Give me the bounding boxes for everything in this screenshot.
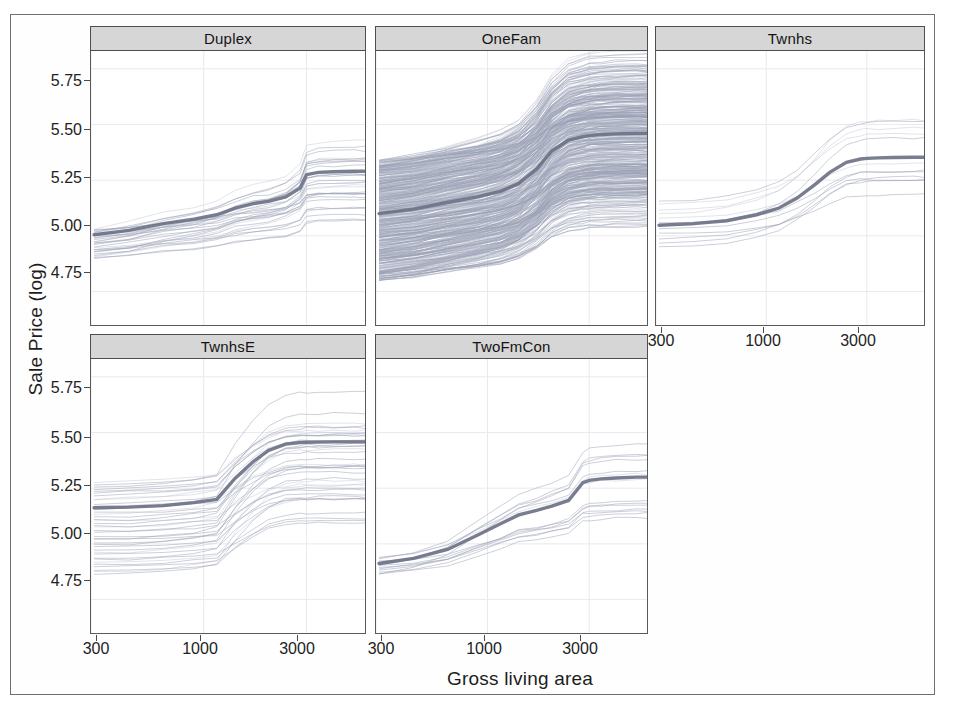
ice-curve — [379, 454, 647, 565]
facet-twofmcon: TwoFmCon — [375, 334, 648, 634]
x-tick-label-twofmcon-1000: 1000 — [454, 640, 514, 658]
x-tick-label-twofmcon-3000: 3000 — [550, 640, 610, 658]
y-axis-title: Sale Price (log) — [25, 229, 47, 429]
facet-strip-twnhse: TwnhsE — [90, 334, 366, 359]
y-tick-label-row0-550: 5.50 — [26, 121, 82, 139]
x-tick-label-twnhse-300: 300 — [66, 640, 126, 658]
facet-label-onefam: OneFam — [482, 30, 542, 47]
facet-svg-twnhs — [656, 51, 924, 325]
pdp-mean-curve — [659, 157, 924, 225]
y-tick-label-row1-575: 5.75 — [26, 379, 82, 397]
facet-panel-twnhse — [90, 359, 366, 634]
x-tick-label-twofmcon-300: 300 — [351, 640, 411, 658]
ice-curve — [379, 513, 647, 568]
facet-twnhse: TwnhsE — [90, 334, 366, 634]
ice-curve — [659, 180, 924, 239]
facet-svg-onefam — [376, 51, 647, 325]
y-tick-label-row0-500: 5.00 — [26, 217, 82, 235]
y-tick-label-row0-475: 4.75 — [26, 264, 82, 282]
y-tick-label-row1-500: 5.00 — [26, 525, 82, 543]
facet-panel-onefam — [375, 51, 648, 326]
ice-curve — [659, 127, 924, 210]
x-axis-title: Gross living area — [380, 668, 660, 690]
facet-label-twnhse: TwnhsE — [201, 338, 256, 355]
y-tick-label-row1-475: 4.75 — [26, 572, 82, 590]
facet-duplex: Duplex — [90, 26, 366, 326]
x-tick-label-twnhs-1000: 1000 — [733, 332, 793, 350]
facet-strip-duplex: Duplex — [90, 26, 366, 51]
y-tick-label-row0-575: 5.75 — [26, 72, 82, 90]
ice-curve — [379, 479, 647, 563]
x-tick-label-twnhs-3000: 3000 — [828, 332, 888, 350]
x-tick-label-twnhse-1000: 1000 — [170, 640, 230, 658]
facet-strip-twofmcon: TwoFmCon — [375, 334, 648, 359]
ice-curve — [659, 133, 924, 204]
ice-curve — [659, 121, 924, 201]
x-tick-label-twnhs-300: 300 — [631, 332, 691, 350]
facet-panel-twofmcon — [375, 359, 648, 634]
facet-svg-twnhse — [91, 359, 365, 633]
y-tick-label-row0-525: 5.25 — [26, 169, 82, 187]
ice-curve — [94, 185, 365, 252]
x-tick-label-twnhse-3000: 3000 — [267, 640, 327, 658]
ice-curve — [659, 163, 924, 218]
facet-strip-twnhs: Twnhs — [655, 26, 925, 51]
y-tick-label-row1-550: 5.50 — [26, 429, 82, 447]
facet-panel-duplex — [90, 51, 366, 326]
faceted-ice-plot: Sale Price (log) Gross living area 5.75 … — [0, 0, 953, 707]
facet-twnhs: Twnhs — [655, 26, 925, 326]
facet-label-duplex: Duplex — [204, 30, 252, 47]
facet-onefam: OneFam — [375, 26, 648, 326]
facet-strip-onefam: OneFam — [375, 26, 648, 51]
facet-svg-duplex — [91, 51, 365, 325]
facet-panel-twnhs — [655, 51, 925, 326]
facet-label-twnhs: Twnhs — [768, 30, 812, 47]
ice-curve — [379, 473, 647, 558]
y-tick-label-row1-525: 5.25 — [26, 477, 82, 495]
facet-svg-twofmcon — [376, 359, 647, 633]
facet-label-twofmcon: TwoFmCon — [472, 338, 550, 355]
